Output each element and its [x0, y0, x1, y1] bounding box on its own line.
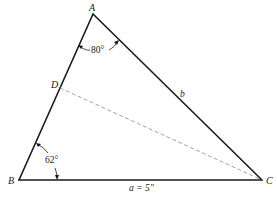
arrow-up-icon: [36, 143, 41, 147]
vertex-a-label: A: [88, 2, 96, 13]
angle-a-label: 80°: [91, 45, 105, 55]
angle-b-marker: 62°: [36, 143, 59, 180]
vertex-c-label: C: [266, 175, 273, 186]
side-b-label: b: [180, 89, 185, 99]
side-ca: [93, 14, 262, 180]
angle-b-label: 62°: [45, 155, 59, 165]
angle-a-marker: 80°: [78, 40, 119, 55]
vertex-d-label: D: [50, 79, 59, 90]
vertex-b-label: B: [8, 175, 14, 186]
side-a-label: a = 5": [129, 183, 155, 193]
triangle-diagram: 80° 62° A B C D a = 5" b: [0, 0, 277, 197]
segment-dc: [60, 88, 262, 180]
arrow-right-icon: [114, 40, 119, 45]
